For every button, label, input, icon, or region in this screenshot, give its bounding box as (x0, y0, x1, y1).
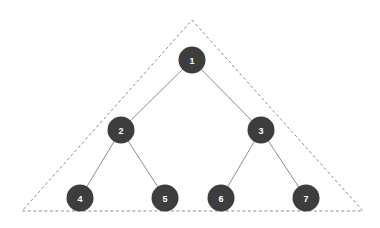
node-circle-4[interactable] (67, 185, 94, 212)
tree-node-5[interactable]: 5 (152, 185, 179, 212)
node-circle-3[interactable] (248, 117, 275, 144)
node-circle-2[interactable] (108, 117, 135, 144)
tree-diagram-canvas: 1 2 3 4 5 6 (0, 0, 380, 228)
node-circle-6[interactable] (208, 185, 235, 212)
tree-node-1[interactable]: 1 (179, 47, 206, 74)
node-circle-1[interactable] (179, 47, 206, 74)
tree-node-4[interactable]: 4 (67, 185, 94, 212)
tree-node-7[interactable]: 7 (293, 185, 320, 212)
tree-node-3[interactable]: 3 (248, 117, 275, 144)
tree-node-6[interactable]: 6 (208, 185, 235, 212)
tree-node-2[interactable]: 2 (108, 117, 135, 144)
tree-diagram-svg: 1 2 3 4 5 6 (0, 0, 380, 228)
node-circle-7[interactable] (293, 185, 320, 212)
node-circle-5[interactable] (152, 185, 179, 212)
tree-nodes-group: 1 2 3 4 5 6 (67, 47, 320, 212)
edge-node1-node3 (192, 60, 261, 130)
edge-node1-node2 (121, 60, 192, 130)
